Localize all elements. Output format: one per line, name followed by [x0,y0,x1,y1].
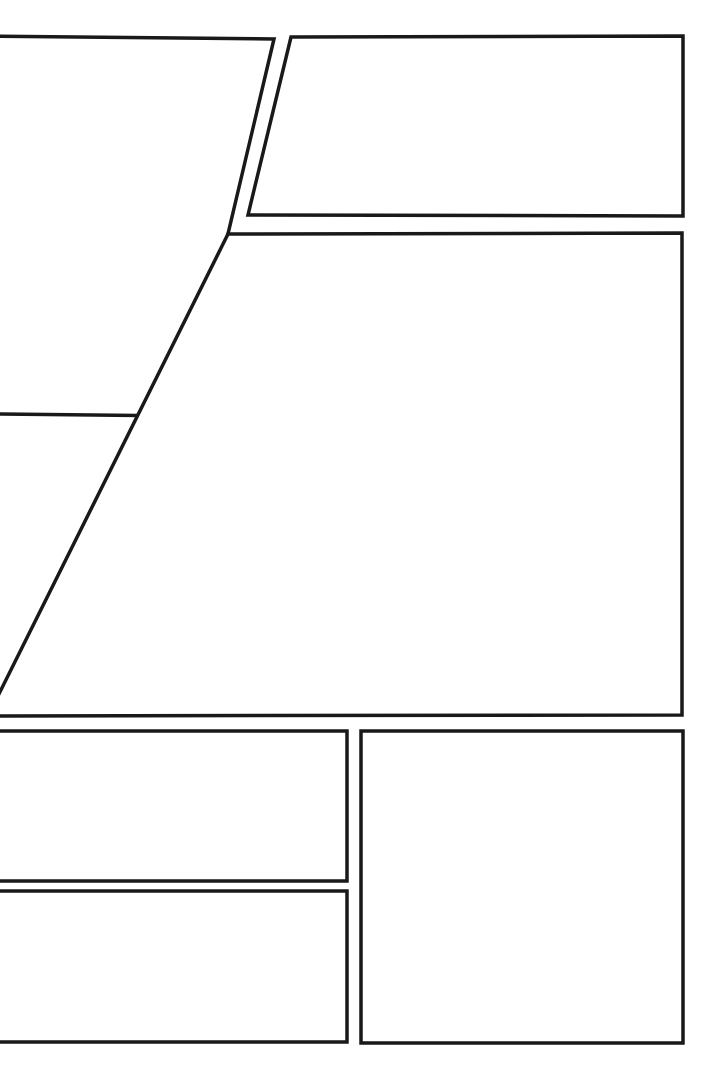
panel-2[interactable] [248,36,683,216]
panel-layout-canvas [0,0,722,1077]
comic-page [0,0,722,1077]
panel-5[interactable] [0,891,347,1042]
panel-4[interactable] [0,731,347,881]
panel-6[interactable] [361,731,683,1043]
